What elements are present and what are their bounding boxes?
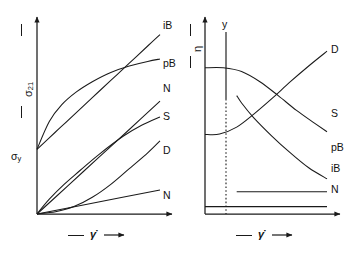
left-x-label-dash xyxy=(68,235,84,236)
left-label-N-upper: N xyxy=(163,83,171,94)
right-panel-curves xyxy=(205,51,327,206)
left-label-iB: iB xyxy=(163,20,172,31)
curve-pB-stress xyxy=(37,59,160,149)
left-label-D: D xyxy=(163,145,171,156)
rheology-figure: σ21 σy iB pB N S D N γ̇ η y D S pB iB N … xyxy=(0,0,359,262)
right-y-axis-dash-top xyxy=(190,24,191,36)
left-label-pB: pB xyxy=(163,58,176,69)
right-x-axis-label: γ̇ xyxy=(258,228,264,240)
right-y-axis-dash-bottom xyxy=(190,56,191,68)
left-y-axis-label-subscript: 21 xyxy=(26,82,35,90)
left-y-axis-label-group: σ21 xyxy=(22,82,35,97)
right-label-D: D xyxy=(331,44,339,55)
curve-D-stress xyxy=(37,141,160,214)
left-x-axis-label: γ̇ xyxy=(90,228,96,240)
right-yield-marker-label: y xyxy=(222,19,227,30)
right-x-label-arrow xyxy=(272,230,298,240)
yield-stress-label: σy xyxy=(11,151,21,163)
curve-D-visc xyxy=(205,51,327,135)
right-label-N: N xyxy=(331,184,339,195)
curve-N-stress xyxy=(37,101,160,214)
left-y-axis-label: σ21 xyxy=(22,82,34,97)
curve-iB-stress xyxy=(37,35,160,150)
right-label-S: S xyxy=(331,108,338,119)
left-label-S: S xyxy=(163,111,170,122)
left-panel-axes xyxy=(37,17,172,214)
left-y-axis-dash-bottom xyxy=(21,106,22,118)
left-label-N-lower: N xyxy=(163,190,171,201)
right-y-axis-label: η xyxy=(191,46,203,52)
curve-pB-visc xyxy=(237,96,327,179)
figure-canvas xyxy=(0,0,359,262)
right-label-pB: pB xyxy=(331,142,344,153)
yield-stress-label-subscript: y xyxy=(17,154,21,163)
right-panel-axes xyxy=(205,17,340,214)
left-y-axis-dash-top xyxy=(21,24,22,36)
right-label-iB: iB xyxy=(331,163,340,174)
right-x-label-dash xyxy=(236,235,252,236)
curve-S-visc xyxy=(205,68,327,132)
left-panel-curves xyxy=(37,35,160,214)
left-x-label-arrow xyxy=(104,230,130,240)
